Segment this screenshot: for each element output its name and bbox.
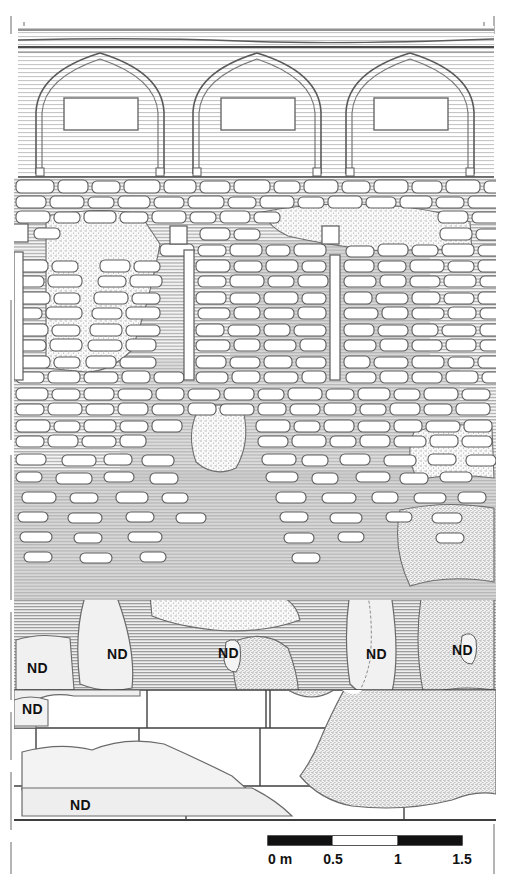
scalebar-seg-2 bbox=[333, 836, 398, 845]
nd-label-7: ND bbox=[70, 797, 91, 813]
ashlar-render-4 bbox=[22, 788, 292, 816]
drawing-canvas: ND ND ND ND ND ND ND 0 m 0.5 1 1.5 bbox=[0, 0, 510, 887]
scalebar-seg-3 bbox=[397, 836, 462, 845]
nd-label-5: ND bbox=[366, 646, 387, 662]
scalebar-tick-1-5: 1.5 bbox=[452, 851, 472, 867]
arch-3-panel bbox=[374, 98, 448, 130]
upper-arcade-band bbox=[18, 26, 494, 178]
beam-slot-2 bbox=[184, 250, 194, 380]
nd-label-3: ND bbox=[22, 701, 43, 717]
nd-label-2: ND bbox=[107, 646, 128, 662]
nd-label-4: ND bbox=[218, 645, 239, 661]
wall-elevation-svg: ND ND ND ND ND ND ND 0 m 0.5 1 1.5 bbox=[0, 0, 510, 887]
putlog-hole-1 bbox=[12, 224, 28, 242]
putlog-hole-2 bbox=[170, 226, 187, 244]
nd-label-6: ND bbox=[452, 642, 473, 658]
arch-1-panel bbox=[64, 98, 138, 130]
arch-2-panel bbox=[221, 98, 295, 130]
beam-slot-3 bbox=[330, 255, 340, 380]
nd-label-1: ND bbox=[27, 660, 48, 676]
beam-slot-1 bbox=[14, 252, 23, 380]
rubble-masonry-body bbox=[12, 178, 508, 602]
scalebar-tick-1: 1 bbox=[394, 851, 402, 867]
putlog-hole-3 bbox=[322, 226, 339, 244]
scalebar-tick-0-5: 0.5 bbox=[323, 851, 343, 867]
scalebar-tick-0: 0 m bbox=[268, 851, 292, 867]
